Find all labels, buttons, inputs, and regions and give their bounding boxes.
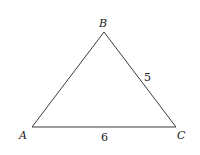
side-label-bc: 5 bbox=[144, 71, 151, 84]
vertex-label-c: C bbox=[177, 129, 186, 142]
vertex-label-b: B bbox=[98, 17, 107, 30]
vertex-label-a: A bbox=[18, 129, 27, 142]
triangle-abc bbox=[32, 32, 176, 127]
triangle-diagram: B A C 5 6 bbox=[0, 0, 200, 155]
side-label-ac: 6 bbox=[101, 131, 108, 144]
